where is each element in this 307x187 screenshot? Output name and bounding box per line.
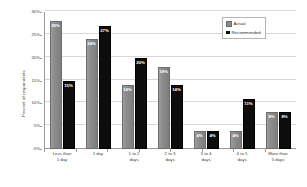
x-axis-tick-label: 2 to 3days <box>152 151 188 181</box>
y-axis-tick-mark <box>40 35 42 36</box>
legend-item: Actual <box>226 21 261 27</box>
gridline <box>45 56 296 57</box>
y-axis-tick-label: 25% <box>31 33 40 37</box>
gridline <box>45 79 296 80</box>
x-axis-tick-label: 1 to 2days <box>116 151 152 181</box>
legend-swatch-icon <box>226 31 230 35</box>
y-axis-tick-label: 10% <box>31 101 40 105</box>
legend-label: Actual <box>234 22 246 26</box>
y-axis-tick-mark <box>40 126 42 127</box>
y-axis-tick-label: 15% <box>31 78 40 82</box>
chart-legend: ActualRecommended <box>222 17 266 39</box>
x-axis-tick-label: 3 to 4days <box>188 151 224 181</box>
y-axis-tick-label: 20% <box>31 56 40 60</box>
y-axis-tick-mark <box>40 81 42 82</box>
gridline <box>45 10 296 11</box>
gridline <box>45 124 296 125</box>
y-axis-tick-label: 30% <box>31 10 40 14</box>
y-axis-tick-mark <box>40 12 42 13</box>
y-axis-tick-mark <box>40 58 42 59</box>
gridline <box>45 101 296 102</box>
y-axis-tick-mark <box>40 149 42 150</box>
x-axis-tick-labels: Less than1 day1 day1 to 2days2 to 3days3… <box>44 151 296 181</box>
x-axis-tick-label: 1 day <box>80 151 116 181</box>
x-axis-tick-label: More than5 days <box>260 151 296 181</box>
x-axis-tick-label: Less than1 day <box>44 151 80 181</box>
y-axis-tick-labels: 0%5%10%15%20%25%30% <box>22 12 42 149</box>
legend-swatch-icon <box>226 21 232 27</box>
bar-chart: Percent of respondents 0%5%10%15%20%25%3… <box>0 0 307 187</box>
legend-label: Recommended <box>232 31 261 35</box>
x-axis-tick-label: 4 to 5days <box>224 151 260 181</box>
legend-item: Recommended <box>226 31 261 35</box>
y-axis-tick-mark <box>40 103 42 104</box>
